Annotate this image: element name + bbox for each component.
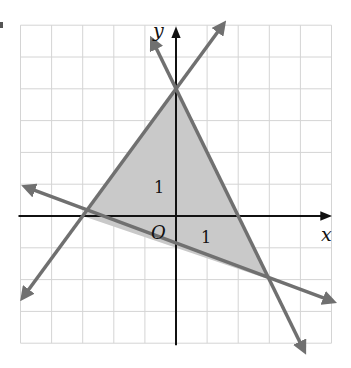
x-axis-label: x <box>321 223 332 245</box>
y-axis-label: y <box>152 19 164 41</box>
coordinate-plane: y x O 1 1 <box>0 0 351 368</box>
x-tick-label: 1 <box>201 228 211 247</box>
cropped-text-fragment <box>0 22 3 28</box>
y-tick-label: 1 <box>154 178 164 197</box>
origin-label: O <box>151 222 166 243</box>
